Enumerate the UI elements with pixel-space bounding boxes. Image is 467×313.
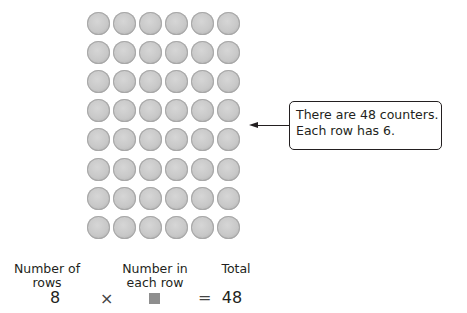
counter — [113, 12, 136, 35]
rows-value: 8 — [40, 288, 70, 307]
counter — [139, 41, 162, 64]
counter — [87, 99, 110, 122]
counter — [191, 158, 214, 181]
counter — [191, 187, 214, 210]
counter — [87, 216, 110, 239]
counter — [113, 41, 136, 64]
total-label: Total — [206, 262, 266, 276]
counter — [217, 70, 240, 93]
counter — [113, 70, 136, 93]
counter — [139, 187, 162, 210]
counter — [165, 158, 188, 181]
counter — [191, 70, 214, 93]
counter — [139, 12, 162, 35]
counter — [165, 70, 188, 93]
counter — [139, 99, 162, 122]
counter — [87, 70, 110, 93]
counter — [139, 158, 162, 181]
arrow-line — [256, 125, 289, 126]
counter — [113, 158, 136, 181]
callout-line-2: Each row has 6. — [296, 123, 441, 139]
counter — [87, 187, 110, 210]
counter — [165, 41, 188, 64]
counter — [191, 216, 214, 239]
counter — [139, 70, 162, 93]
counter — [191, 128, 214, 151]
unknown-value-box — [149, 293, 160, 304]
callout-box: There are 48 counters. Each row has 6. — [289, 101, 442, 150]
arrow-left-icon — [249, 122, 258, 128]
counter — [139, 128, 162, 151]
callout-line-1: There are 48 counters. — [296, 107, 441, 123]
counter — [113, 187, 136, 210]
counter — [87, 158, 110, 181]
counter — [165, 128, 188, 151]
counter — [191, 99, 214, 122]
counter — [87, 128, 110, 151]
rows-label: Number of rows — [7, 262, 87, 290]
counter — [217, 216, 240, 239]
counter — [113, 128, 136, 151]
counter — [139, 216, 162, 239]
counter — [217, 187, 240, 210]
each-row-label-line-2: each row — [115, 276, 195, 290]
each-row-label: Number in each row — [115, 262, 195, 290]
counter — [165, 187, 188, 210]
counter — [191, 41, 214, 64]
counter — [217, 12, 240, 35]
counter — [165, 99, 188, 122]
counter — [217, 128, 240, 151]
counter — [87, 12, 110, 35]
counter — [113, 216, 136, 239]
counter — [165, 12, 188, 35]
counter — [113, 99, 136, 122]
counter — [217, 158, 240, 181]
counter — [87, 41, 110, 64]
counter — [191, 12, 214, 35]
equals-symbol: = — [198, 288, 211, 307]
each-row-label-line-1: Number in — [115, 262, 195, 276]
total-value: 48 — [217, 288, 247, 307]
times-symbol: × — [100, 289, 113, 308]
rows-label-line-1: Number of — [7, 262, 87, 276]
counter — [165, 216, 188, 239]
counter — [217, 99, 240, 122]
counter — [217, 41, 240, 64]
